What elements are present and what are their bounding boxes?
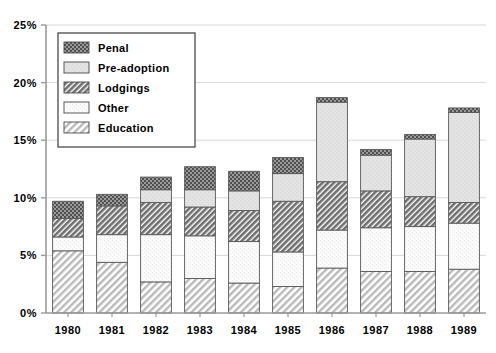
bar-segment-penal-1981 [97, 194, 128, 206]
bar-segment-penal-1987 [361, 149, 392, 155]
y-tick-label: 10% [13, 192, 37, 204]
x-tick-label: 1984 [231, 324, 258, 336]
legend-label-education: Education [98, 122, 154, 134]
chart-container: 0%5%10%15%20%25% 19801981198219831984198… [0, 0, 496, 353]
y-tick-label: 5% [20, 249, 37, 261]
x-tick-label: 1986 [319, 324, 345, 336]
bar-segment-penal-1988 [405, 134, 436, 139]
bar-segment-lodgings-1986 [317, 182, 348, 230]
bar-segment-education-1983 [185, 278, 216, 313]
legend-label-lodgings: Lodgings [98, 82, 150, 94]
x-tick-label: 1982 [143, 324, 169, 336]
bar-segment-pre-adoption-1989 [449, 113, 480, 203]
bar-segment-lodgings-1985 [273, 201, 304, 252]
bar-segment-education-1986 [317, 268, 348, 313]
x-tick-label: 1981 [99, 324, 125, 336]
bar-segment-lodgings-1981 [97, 206, 128, 235]
x-tick-label: 1989 [451, 324, 477, 336]
legend-label-other: Other [98, 102, 129, 114]
bar-segment-penal-1980 [53, 201, 84, 218]
y-tick-label: 25% [13, 19, 37, 31]
bar-segment-education-1989 [449, 269, 480, 313]
legend-swatch-education [64, 122, 89, 133]
bar-segment-education-1988 [405, 272, 436, 313]
bar-segment-lodgings-1980 [53, 219, 84, 237]
bar-segment-penal-1983 [185, 167, 216, 190]
legend-swatch-lodgings [64, 82, 89, 93]
bar-segment-pre-adoption-1988 [405, 139, 436, 197]
bar-segment-penal-1982 [141, 177, 172, 190]
bar-segment-penal-1984 [229, 171, 260, 191]
chart-legend: PenalPre-adoptionLodgingsOtherEducation [58, 33, 195, 147]
bar-segment-other-1985 [273, 252, 304, 287]
bar-segment-other-1983 [185, 236, 216, 279]
bar-segment-education-1985 [273, 287, 304, 313]
x-tick-label: 1983 [187, 324, 213, 336]
bar-segment-penal-1989 [449, 108, 480, 113]
y-tick-label: 0% [20, 307, 37, 319]
legend-swatch-other [64, 102, 89, 113]
bar-segment-education-1984 [229, 283, 260, 313]
y-tick-label: 15% [13, 134, 37, 146]
bar-segment-education-1987 [361, 272, 392, 313]
y-tick-label: 20% [13, 77, 37, 89]
x-tick-label: 1980 [55, 324, 81, 336]
legend-label-pre-adoption: Pre-adoption [98, 62, 169, 74]
bar-segment-education-1982 [141, 282, 172, 313]
bar-segment-lodgings-1988 [405, 197, 436, 227]
legend-label-penal: Penal [98, 42, 129, 54]
bar-segment-pre-adoption-1986 [317, 102, 348, 181]
bar-segment-pre-adoption-1983 [185, 190, 216, 207]
bar-segment-penal-1985 [273, 157, 304, 173]
bar-segment-other-1987 [361, 228, 392, 272]
bar-segment-pre-adoption-1987 [361, 155, 392, 191]
bar-segment-other-1980 [53, 237, 84, 251]
bar-segment-education-1980 [53, 251, 84, 313]
bar-segment-penal-1986 [317, 98, 348, 103]
x-tick-label: 1988 [407, 324, 433, 336]
bar-segment-other-1989 [449, 223, 480, 269]
x-tick-label: 1985 [275, 324, 301, 336]
bar-segment-pre-adoption-1984 [229, 191, 260, 211]
bar-segment-lodgings-1984 [229, 210, 260, 241]
bar-segment-lodgings-1989 [449, 202, 480, 223]
x-tick-label: 1987 [363, 324, 389, 336]
bar-segment-pre-adoption-1985 [273, 174, 304, 202]
stacked-bar-chart: 0%5%10%15%20%25% 19801981198219831984198… [0, 0, 496, 353]
bar-segment-pre-adoption-1982 [141, 190, 172, 203]
bar-segment-other-1986 [317, 230, 348, 268]
bar-segment-other-1981 [97, 235, 128, 263]
bar-segment-lodgings-1982 [141, 202, 172, 234]
bar-segment-other-1982 [141, 235, 172, 282]
bar-segment-lodgings-1983 [185, 207, 216, 236]
bar-segment-lodgings-1987 [361, 191, 392, 228]
legend-swatch-penal [64, 42, 89, 53]
bar-segment-other-1984 [229, 242, 260, 283]
bar-segment-education-1981 [97, 262, 128, 313]
legend-swatch-pre-adoption [64, 62, 89, 73]
bar-segment-other-1988 [405, 227, 436, 272]
